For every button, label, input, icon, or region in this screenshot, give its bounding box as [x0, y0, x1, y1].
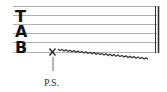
- wavy-scrape-line: [58, 49, 148, 59]
- tab-staff: T A B: [0, 0, 167, 92]
- pick-scrape-label: P.S.: [44, 77, 59, 88]
- double-barline: [156, 6, 159, 53]
- clef-letter-b: B: [15, 38, 27, 57]
- tab-clef: T A B: [15, 7, 28, 57]
- staff-lines: [13, 7, 157, 53]
